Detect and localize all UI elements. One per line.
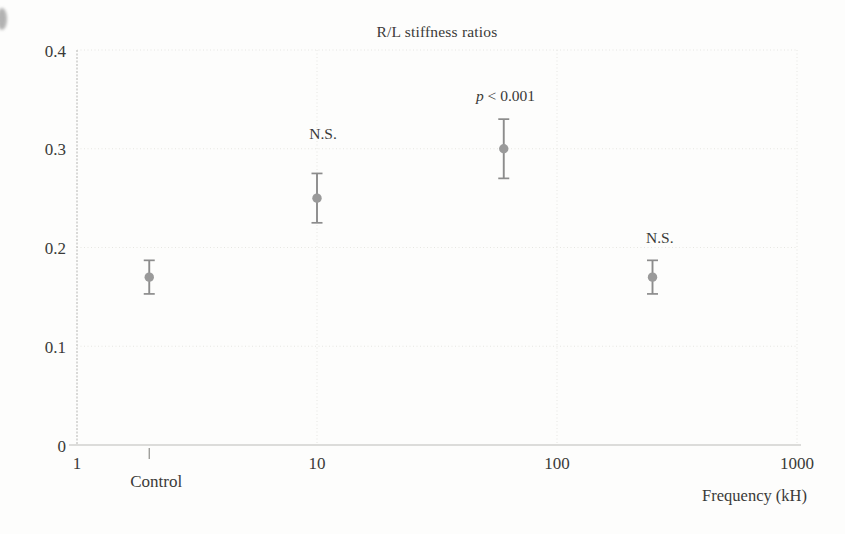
annotation-label-1: p < 0.001 xyxy=(475,87,535,104)
y-tick-label-0: 0 xyxy=(58,437,67,456)
x-tick-label-1: 1 xyxy=(73,454,82,473)
x-tick-label-100: 100 xyxy=(544,454,570,473)
x-axis-label: Frequency (kH) xyxy=(702,486,807,506)
data-point-10 xyxy=(312,193,321,202)
annotation-label-0: N.S. xyxy=(309,125,337,142)
chart-canvas: 00.10.20.30.41101001000ControlN.S.p < 0.… xyxy=(0,0,845,534)
annotation-label-2: N.S. xyxy=(646,229,674,246)
x-tick-label-1000: 1000 xyxy=(780,454,814,473)
chart-figure: R/L stiffness ratios 00.10.20.30.4110100… xyxy=(0,0,845,534)
x-tick-label-10: 10 xyxy=(309,454,326,473)
control-label: Control xyxy=(130,472,182,491)
data-point-2 xyxy=(145,272,154,281)
y-tick-label-0.4: 0.4 xyxy=(45,42,67,61)
y-tick-label-0.2: 0.2 xyxy=(45,239,66,258)
data-point-250 xyxy=(648,272,657,281)
data-point-60 xyxy=(499,144,508,153)
y-tick-label-0.1: 0.1 xyxy=(45,338,66,357)
y-tick-label-0.3: 0.3 xyxy=(45,140,66,159)
